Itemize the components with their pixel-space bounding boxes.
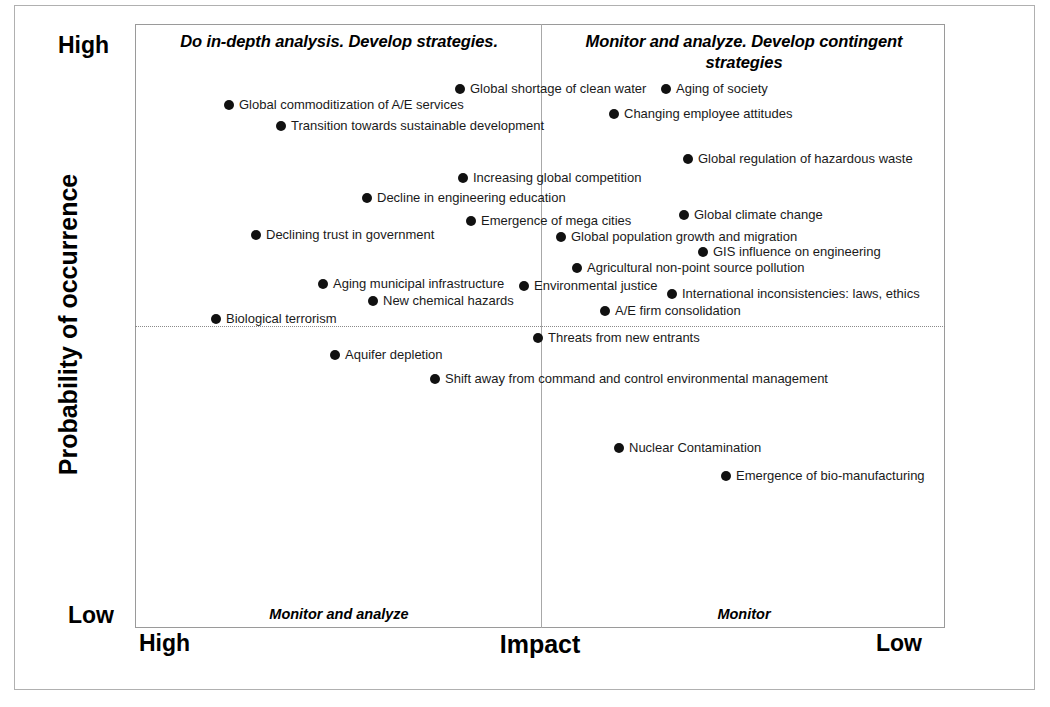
data-point-marker-icon [455, 84, 465, 94]
data-point-marker-icon [251, 230, 261, 240]
data-point-marker-icon [600, 306, 610, 316]
data-point: Global shortage of clean water [455, 82, 646, 95]
data-point-marker-icon [609, 109, 619, 119]
data-point-label: Aging of society [676, 82, 768, 95]
data-point-label: Aging municipal infrastructure [333, 277, 504, 290]
quadrant-label-top-right: Monitor and analyze. Develop contingent … [546, 31, 942, 72]
data-point-marker-icon [679, 210, 689, 220]
y-axis-low-label: Low [68, 602, 114, 629]
data-point-marker-icon [458, 173, 468, 183]
data-point-label: Biological terrorism [226, 312, 337, 325]
data-point: Emergence of mega cities [466, 214, 631, 227]
data-point-label: Aquifer depletion [345, 348, 443, 361]
data-point-marker-icon [661, 84, 671, 94]
data-point-label: Transition towards sustainable developme… [291, 119, 544, 132]
data-point: Aging municipal infrastructure [318, 277, 504, 290]
quadrant-label-top-left: Do in-depth analysis. Develop strategies… [140, 31, 538, 52]
x-axis-high-label: High [139, 630, 190, 657]
x-axis-title: Impact [135, 630, 945, 659]
data-point: A/E firm consolidation [600, 304, 741, 317]
data-point-label: Increasing global competition [473, 171, 641, 184]
data-point-label: Global shortage of clean water [470, 82, 646, 95]
quadrant-label-bottom-left: Monitor and analyze [140, 606, 538, 622]
data-point: New chemical hazards [368, 294, 514, 307]
data-point-marker-icon [572, 263, 582, 273]
data-point-marker-icon [318, 279, 328, 289]
data-point-label: A/E firm consolidation [615, 304, 741, 317]
data-point: Decline in engineering education [362, 191, 566, 204]
data-point: Aging of society [661, 82, 768, 95]
data-point-marker-icon [519, 281, 529, 291]
data-point: GIS influence on engineering [698, 245, 881, 258]
data-point-marker-icon [368, 296, 378, 306]
data-point-marker-icon [430, 374, 440, 384]
data-point-marker-icon [683, 154, 693, 164]
data-point-marker-icon [466, 216, 476, 226]
data-point-label: Emergence of mega cities [481, 214, 631, 227]
data-point-label: Shift away from command and control envi… [445, 372, 828, 385]
data-point-label: Threats from new entrants [548, 331, 700, 344]
data-point-marker-icon [330, 350, 340, 360]
data-point-label: Global commoditization of A/E services [239, 98, 464, 111]
y-axis-high-label: High [58, 32, 109, 59]
data-point-marker-icon [533, 333, 543, 343]
data-point-label: Decline in engineering education [377, 191, 566, 204]
data-point: Threats from new entrants [533, 331, 700, 344]
data-point-marker-icon [211, 314, 221, 324]
data-point-label: Environmental justice [534, 279, 658, 292]
data-point: Increasing global competition [458, 171, 641, 184]
data-point-label: Nuclear Contamination [629, 441, 761, 454]
data-point-label: Agricultural non-point source pollution [587, 261, 805, 274]
data-point-marker-icon [224, 100, 234, 110]
data-point-label: GIS influence on engineering [713, 245, 881, 258]
data-point-label: New chemical hazards [383, 294, 514, 307]
data-point-label: Global climate change [694, 208, 823, 221]
data-point: Agricultural non-point source pollution [572, 261, 805, 274]
x-axis-low-label: Low [876, 630, 922, 657]
data-point: Transition towards sustainable developme… [276, 119, 544, 132]
y-axis-title: Probability of occurrence [54, 105, 83, 545]
data-point-marker-icon [362, 193, 372, 203]
data-point: Nuclear Contamination [614, 441, 761, 454]
data-point-label: Global regulation of hazardous waste [698, 152, 913, 165]
data-point-marker-icon [698, 247, 708, 257]
chart-page: Probability of occurrence High Low Impac… [0, 0, 1050, 707]
data-point: International inconsistencies: laws, eth… [667, 287, 920, 300]
data-point: Changing employee attitudes [609, 107, 792, 120]
data-point-label: Changing employee attitudes [624, 107, 792, 120]
data-point: Global commoditization of A/E services [224, 98, 464, 111]
data-point-label: International inconsistencies: laws, eth… [682, 287, 920, 300]
data-point: Aquifer depletion [330, 348, 443, 361]
data-point: Global regulation of hazardous waste [683, 152, 913, 165]
data-point: Global population growth and migration [556, 230, 797, 243]
data-point-marker-icon [721, 471, 731, 481]
data-point: Environmental justice [519, 279, 658, 292]
data-point-marker-icon [614, 443, 624, 453]
data-point-marker-icon [667, 289, 677, 299]
data-point-label: Declining trust in government [266, 228, 434, 241]
data-point: Declining trust in government [251, 228, 434, 241]
data-point: Shift away from command and control envi… [430, 372, 828, 385]
data-point: Global climate change [679, 208, 823, 221]
data-point: Emergence of bio-manufacturing [721, 469, 925, 482]
quadrant-horizontal-divider [135, 326, 945, 327]
quadrant-label-bottom-right: Monitor [546, 606, 942, 622]
data-point-label: Global population growth and migration [571, 230, 797, 243]
data-point: Biological terrorism [211, 312, 337, 325]
data-point-marker-icon [556, 232, 566, 242]
data-point-label: Emergence of bio-manufacturing [736, 469, 925, 482]
data-point-marker-icon [276, 121, 286, 131]
